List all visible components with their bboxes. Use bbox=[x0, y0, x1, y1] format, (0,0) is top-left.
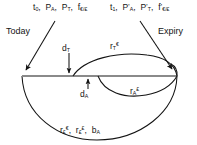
label-r-a: rA£ bbox=[130, 87, 139, 96]
label-d-t: dT bbox=[62, 44, 70, 53]
label-initial-parameters: t0, PA, PT, f€/£ bbox=[33, 3, 87, 12]
rate-b-a: bA bbox=[89, 125, 100, 135]
label-today: Today bbox=[6, 27, 30, 36]
param-pa-prime: P’A, bbox=[120, 2, 136, 12]
label-d-a: dA bbox=[80, 90, 88, 99]
param-f: f€/£ bbox=[75, 2, 87, 12]
upper-arc bbox=[73, 54, 177, 76]
param-pa: PA, bbox=[43, 2, 57, 12]
param-pt: PT, bbox=[59, 2, 73, 12]
rate-r-eur: r£€, bbox=[60, 125, 71, 135]
label-expiry: Expiry bbox=[158, 27, 183, 36]
param-t1: t1, bbox=[110, 2, 118, 12]
arrow-today bbox=[26, 21, 55, 70]
label-expiry-parameters: t1, P’A, P’T, f’€/£ bbox=[110, 3, 170, 12]
param-f-prime: f’€/£ bbox=[156, 2, 170, 12]
diagram-graphics bbox=[0, 0, 197, 145]
label-d-a-sub: A bbox=[85, 93, 89, 99]
label-r-t: rT€ bbox=[110, 42, 119, 51]
rate-r-gbp: r££, bbox=[73, 125, 86, 135]
label-bottom-rates: r£€, r££, bA bbox=[60, 126, 100, 135]
param-pt-prime: P’T, bbox=[138, 2, 153, 12]
label-d-t-sub: T bbox=[67, 47, 70, 53]
label-r-a-sup: £ bbox=[136, 86, 139, 92]
param-t0: t0, bbox=[33, 2, 41, 12]
label-r-t-sup: € bbox=[116, 41, 119, 47]
diagram-canvas: t0, PA, PT, f€/£ t1, P’A, P’T, f’€/£ Tod… bbox=[0, 0, 197, 145]
